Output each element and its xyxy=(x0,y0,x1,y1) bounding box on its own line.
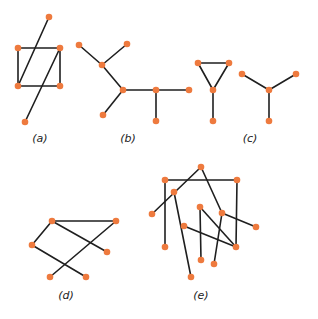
graph-edge xyxy=(103,90,123,115)
graph-vertex xyxy=(181,223,188,230)
graph-vertex xyxy=(171,189,178,196)
graph-vertex xyxy=(239,71,246,78)
graph-edge xyxy=(242,74,269,90)
graph-edge xyxy=(102,65,123,90)
graph-vertex xyxy=(22,119,29,126)
labels-layer: (a)(b)(c)(d)(e) xyxy=(32,132,257,302)
graph-vertex xyxy=(15,45,22,52)
graph-label-e: (e) xyxy=(193,289,208,302)
graph-vertex xyxy=(100,112,107,119)
graph-vertex xyxy=(197,204,204,211)
graph-vertex xyxy=(195,60,202,67)
graph-vertex xyxy=(57,45,64,52)
graph-vertex xyxy=(226,60,233,67)
graph-diagram: (a)(b)(c)(d)(e) xyxy=(0,0,318,319)
graph-vertex xyxy=(47,274,54,281)
graph-edge xyxy=(184,226,236,247)
graph-vertex xyxy=(104,249,111,256)
graph-vertex xyxy=(162,244,169,251)
graph-edge xyxy=(79,45,102,65)
graph-edge xyxy=(102,44,127,65)
graph-edge xyxy=(213,63,229,90)
graph-vertex xyxy=(124,41,131,48)
graph-vertex xyxy=(49,218,56,225)
graph-vertex xyxy=(219,210,226,217)
graph-edge xyxy=(18,17,49,86)
graph-edge xyxy=(222,213,256,227)
graph-vertex xyxy=(233,244,240,251)
graph-vertex xyxy=(266,118,273,125)
graph-vertex xyxy=(253,224,260,231)
graph-vertex xyxy=(211,261,218,268)
graph-edge xyxy=(174,192,191,277)
graph-vertex xyxy=(293,71,300,78)
graph-vertex xyxy=(210,87,217,94)
graph-label-d: (d) xyxy=(58,289,74,302)
graph-vertex xyxy=(234,177,241,184)
graph-vertex xyxy=(198,257,205,264)
graph-vertex xyxy=(153,87,160,94)
graph-vertex xyxy=(76,42,83,49)
graph-vertex xyxy=(186,87,193,94)
graph-vertex xyxy=(113,218,120,225)
graph-label-c: (c) xyxy=(243,132,258,145)
graph-vertex xyxy=(29,242,36,249)
graph-edge xyxy=(198,63,213,90)
graph-vertex xyxy=(153,118,160,125)
graph-vertex xyxy=(83,274,90,281)
graph-vertex xyxy=(198,164,205,171)
graph-vertex xyxy=(46,14,53,21)
graph-edge xyxy=(269,74,296,90)
edges-layer xyxy=(18,17,296,277)
graph-vertex xyxy=(188,274,195,281)
graph-vertex xyxy=(57,83,64,90)
graph-label-b: (b) xyxy=(120,132,136,145)
graph-edge xyxy=(32,245,86,277)
graph-vertex xyxy=(99,62,106,69)
graph-edge xyxy=(32,221,52,245)
graph-edge xyxy=(236,180,237,247)
graph-label-a: (a) xyxy=(32,132,47,145)
graph-vertex xyxy=(149,211,156,218)
graph-vertex xyxy=(15,83,22,90)
graph-vertex xyxy=(266,87,273,94)
graph-vertex xyxy=(120,87,127,94)
graph-edge xyxy=(201,167,222,213)
graph-vertex xyxy=(210,118,217,125)
graph-vertex xyxy=(162,177,169,184)
